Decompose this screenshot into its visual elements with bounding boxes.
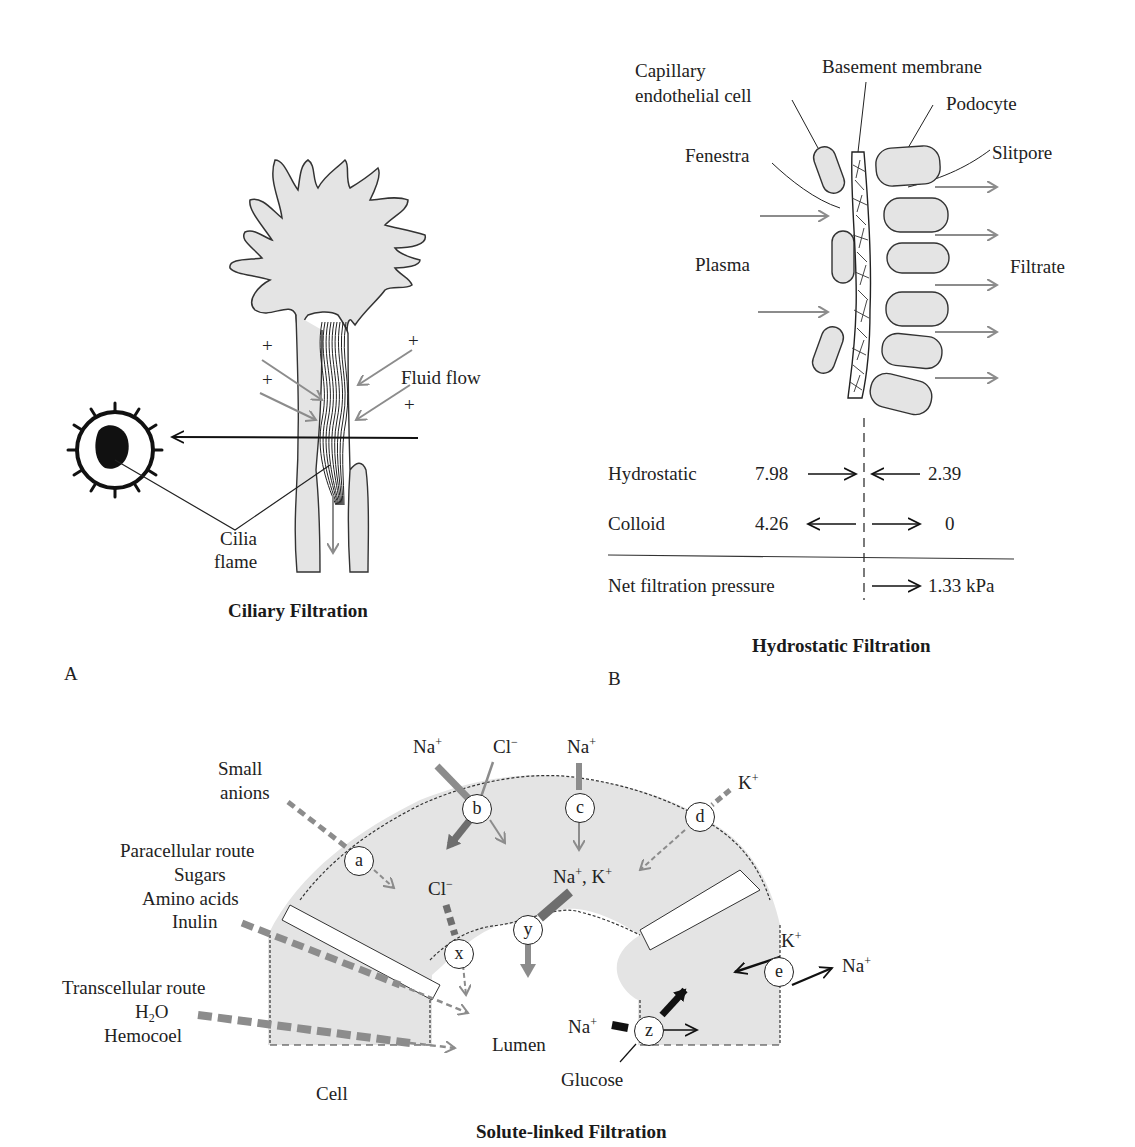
cl-ion-label-x: Cl− <box>428 878 453 900</box>
h2o-label: H2O <box>135 1001 168 1023</box>
hydrostatic-filtrate-value: 2.39 <box>928 463 961 485</box>
small-anions-label: Small <box>218 758 262 780</box>
hydrostatic-plasma-value: 7.98 <box>755 463 788 485</box>
sum-divider <box>608 555 1014 559</box>
na-ion-label-b: Na+ <box>413 736 442 758</box>
tubule-wall-right <box>348 333 369 572</box>
k-ion-label-e: K+ <box>781 930 802 952</box>
hydrostatic-row-label: Hydrostatic <box>608 463 697 485</box>
panel-c-title: Solute-linked Filtration <box>476 1121 667 1143</box>
flame-cell-body <box>230 160 425 335</box>
paracellular-route-label: Paracellular route <box>120 840 255 862</box>
transporter-z: z <box>634 1016 664 1046</box>
colloid-row-label: Colloid <box>608 513 665 535</box>
na-ion-label-e: Na+ <box>842 955 871 977</box>
plus-sign: + <box>404 394 415 416</box>
cilia-label: Cilia <box>220 528 257 550</box>
hemocoel-label: Hemocoel <box>104 1025 182 1047</box>
na-ion-label-c: Na+ <box>567 736 596 758</box>
colloid-filtrate-value: 0 <box>945 513 955 535</box>
flame-cell-diagram <box>68 160 425 572</box>
basement-membrane-label: Basement membrane <box>822 56 982 78</box>
panel-a-letter: A <box>64 663 78 685</box>
plus-sign: + <box>262 369 273 391</box>
amino-acids-label: Amino acids <box>142 888 239 910</box>
cilia-bundle <box>320 322 348 505</box>
tubule-cross-section <box>68 403 162 497</box>
flow-direction-arrow <box>172 437 418 438</box>
filtrate-label: Filtrate <box>1010 256 1065 278</box>
slitpore-label: Slitpore <box>992 142 1052 164</box>
panel-a-title: Ciliary Filtration <box>228 600 368 622</box>
lumen-label: Lumen <box>492 1034 546 1056</box>
na-ion-label-z: Na+ <box>568 1016 597 1038</box>
cl-ion-label-b: Cl− <box>493 736 518 758</box>
diagram-canvas <box>0 0 1135 1147</box>
capillary-label: Capillary <box>635 60 706 82</box>
epithelium-diagram <box>198 762 832 1062</box>
panel-b-title: Hydrostatic Filtration <box>752 635 931 657</box>
plasma-label: Plasma <box>695 254 750 276</box>
fenestra-label: Fenestra <box>685 145 749 167</box>
k-ion-label-d: K+ <box>738 772 759 794</box>
transporter-b: b <box>462 794 492 824</box>
podocyte-label: Podocyte <box>946 93 1017 115</box>
sugars-label: Sugars <box>174 864 226 886</box>
plus-sign: + <box>262 335 273 357</box>
na-k-ion-label: Na+, K+ <box>553 866 612 888</box>
cell-label: Cell <box>316 1083 348 1105</box>
transporter-e: e <box>764 957 794 987</box>
transporter-c: c <box>565 793 595 823</box>
transporter-x: x <box>444 939 474 969</box>
transporter-y: y <box>513 915 543 945</box>
glucose-label: Glucose <box>561 1069 623 1091</box>
panel-b-letter: B <box>608 668 621 690</box>
transporter-a: a <box>344 846 374 876</box>
endothelial-label: endothelial cell <box>635 85 752 107</box>
tubule-wall-left <box>295 315 322 572</box>
transcellular-route-label: Transcellular route <box>62 977 205 999</box>
small-anions-label-line2: anions <box>220 782 270 804</box>
net-pressure-value: 1.33 kPa <box>928 575 995 597</box>
flame-label: flame <box>214 551 257 573</box>
plus-sign: + <box>408 330 419 352</box>
transporter-d: d <box>685 802 715 832</box>
fluid-flow-label: Fluid flow <box>401 367 481 389</box>
inulin-label: Inulin <box>172 911 217 933</box>
colloid-plasma-value: 4.26 <box>755 513 788 535</box>
net-pressure-label: Net filtration pressure <box>608 575 775 597</box>
